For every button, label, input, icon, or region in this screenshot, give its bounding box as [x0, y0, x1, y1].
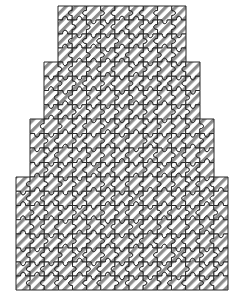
jigsaw-ziggurat-figure — [0, 0, 245, 304]
tiers-group — [16, 6, 228, 290]
figure-canvas — [0, 0, 245, 304]
